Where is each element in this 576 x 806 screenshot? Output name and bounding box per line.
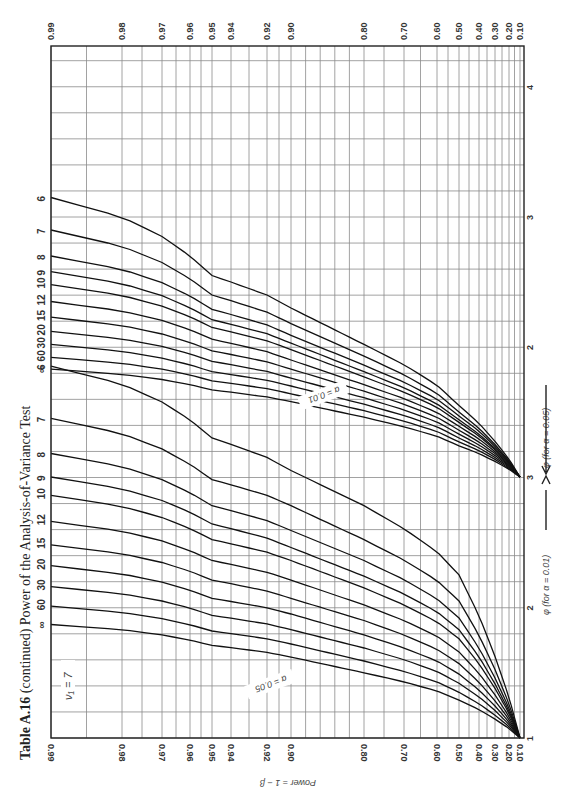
power-tick-bottom: 0.92 [262,744,272,762]
phi-tick-alpha01: 1 [525,736,535,741]
power-tick-top: 0.30 [490,22,500,40]
power-tick-bottom: 0.20 [504,744,514,762]
axis-labels: 0.990.990.980.980.970.970.960.960.950.95… [46,22,535,761]
power-tick-bottom: 0.70 [399,744,409,762]
alpha-05-label-group: α = 0.05 [244,669,296,699]
curve-edge-label: 7 [36,416,47,422]
phi-tick-alpha01: 2 [525,605,535,610]
curve-edge-label: 8 [36,254,47,260]
power-curve [51,285,520,477]
power-axis-label: Power = 1 − β [260,778,316,788]
power-tick-bottom: 0.90 [286,744,296,762]
chart-title: Table A.16 (continued) Power of the Anal… [18,405,34,760]
power-tick-top: 0.50 [454,22,464,40]
curve-edge-label: 30 [36,579,47,591]
power-tick-bottom: 0.94 [226,744,236,762]
phi-01-label-group: φ (for α = 0.01) [541,555,551,615]
phi-tick-alpha05: 3 [525,215,535,220]
power-curve [51,302,520,478]
curve-edge-label: 12 [36,294,47,306]
nu1-label: ν₁ = 7 [62,671,74,700]
power-tick-bottom: 0.50 [454,744,464,762]
curve-edge-label: 20 [36,558,47,570]
curve-edge-label: 9 [36,270,47,276]
power-tick-top: 0.97 [157,22,167,40]
power-tick-top: 0.40 [474,22,484,40]
power-curve [51,256,520,477]
curve-edge-label: 12 [36,514,47,526]
power-tick-top: 0.94 [226,22,236,40]
curve-edge-label: 60 [36,599,47,611]
chart-curves [51,198,520,739]
power-tick-top: 0.70 [399,22,409,40]
curve-edge-label: 6 [36,196,47,202]
curve-edge-label: 10 [36,277,47,289]
power-tick-top: 0.10 [515,22,525,40]
power-tick-bottom: 0.40 [474,744,484,762]
title-bold: Table A.16 [18,697,33,760]
power-curve [51,357,520,477]
power-tick-bottom: 0.97 [157,744,167,762]
power-curve [51,344,520,477]
power-tick-bottom: 0.98 [117,744,127,762]
curve-edge-label: 15 [36,537,47,549]
curve-edge-label: 6 [36,364,47,370]
power-tick-bottom: 0.10 [515,744,525,762]
curve-edge-label: ∞ [36,621,47,628]
phi-alpha01-label: φ (for α = 0.01) [541,555,551,615]
power-tick-top: 0.98 [117,22,127,40]
power-curve [51,198,520,478]
power-tick-top: 0.90 [286,22,296,40]
power-tick-bottom: 0.30 [490,744,500,762]
power-tick-top: 0.99 [46,22,56,40]
curve-edge-label: 60 [36,350,47,362]
curve-edge-label: 30 [36,337,47,349]
power-tick-bottom: 0.99 [46,744,56,762]
curve-edge-label: 10 [36,488,47,500]
curve-edge-label: 20 [36,324,47,336]
power-tick-top: 0.20 [504,22,514,40]
svg-text:Table A.16 (continued) Power o: Table A.16 (continued) Power of the Anal… [18,405,34,760]
phi-tick-alpha01: 3 [525,475,535,480]
arrow-up-icon [542,476,550,530]
power-curve [51,454,520,739]
curve-edge-label: 15 [36,310,47,322]
power-tick-bottom: 0.60 [432,744,442,762]
power-tick-bottom: 0.96 [185,744,195,762]
curve-edge-label: 8 [36,452,47,458]
curve-edge-label: 7 [36,228,47,234]
phi-tick-alpha05: 2 [525,345,535,350]
phi-tick-alpha05: 4 [525,85,535,90]
power-tick-top: 0.96 [185,22,195,40]
power-tick-top: 0.95 [207,22,217,40]
power-axis-title: Power = 1 − β [260,778,316,788]
power-chart: 6789101215203060∞6789101215203060∞ 0.990… [0,0,576,806]
curve-labels: 6789101215203060∞6789101215203060∞ [36,196,47,629]
power-tick-top: 0.92 [262,22,272,40]
power-curve [51,230,520,477]
title-rest: (continued) Power of the Analysis-of-Var… [18,405,34,696]
power-tick-bottom: 0.95 [207,744,217,762]
curve-edge-label: 9 [36,475,47,481]
power-tick-top: 0.60 [432,22,442,40]
nu1-label-group: ν₁ = 7 [61,660,75,704]
power-tick-top: 0.80 [359,22,369,40]
power-tick-bottom: 0.80 [359,744,369,762]
